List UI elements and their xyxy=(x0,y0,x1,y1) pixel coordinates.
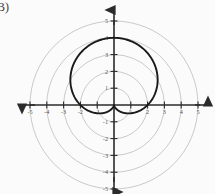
x-tick-label: 5 xyxy=(196,108,199,115)
y-tick-label: 2 xyxy=(105,68,108,75)
figure-panel: B) xyxy=(0,0,215,194)
y-tick-label: 3 xyxy=(105,51,108,58)
y-tick-label: -5 xyxy=(103,185,108,192)
x-tick-label: 2 xyxy=(146,108,149,115)
y-tick-label: -4 xyxy=(103,168,108,175)
x-tick-label: -3 xyxy=(61,108,66,115)
x-tick-label: 4 xyxy=(180,108,183,115)
y-tick-label: -1 xyxy=(103,118,108,125)
y-tick-label: -3 xyxy=(103,152,108,159)
x-tick-label: 3 xyxy=(163,108,166,115)
y-tick-label: -2 xyxy=(103,135,108,142)
polar-plot: -5 -4 -3 -2 -1 1 2 3 4 5 5 4 3 2 1 -1 -2… xyxy=(0,0,215,194)
x-tick-label: -5 xyxy=(27,108,32,115)
x-tick-label: -2 xyxy=(78,108,83,115)
x-tick-label: -4 xyxy=(44,108,49,115)
y-tick-label: 5 xyxy=(105,17,108,24)
y-tick-label: 1 xyxy=(105,84,108,91)
